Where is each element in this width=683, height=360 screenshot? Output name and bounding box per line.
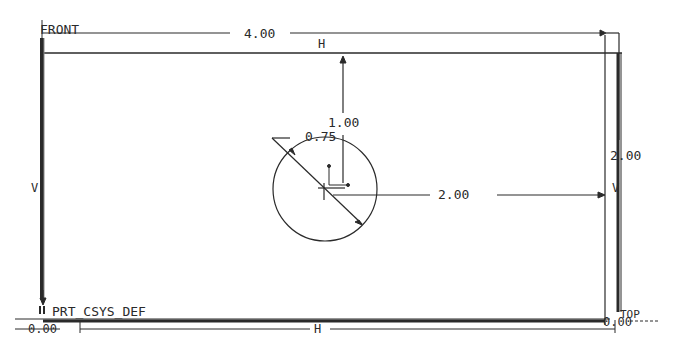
csys-label: PRT_CSYS_DEF [52, 304, 146, 319]
sketch-canvas[interactable]: FRONT 4.00 H 1.00 0.75 2.00 2.00 V V PRT… [0, 0, 683, 360]
width-dimension[interactable]: 4.00 [244, 26, 275, 41]
hole-diameter-dimension[interactable]: 0.75 [305, 129, 336, 144]
datum-top-label: TOP [620, 308, 640, 321]
hole-offset-top-dimension[interactable]: 1.00 [328, 115, 359, 130]
height-dimension[interactable]: 2.00 [610, 148, 641, 163]
bottom-horizontal-constraint: H [314, 322, 321, 336]
top-horizontal-constraint: H [318, 37, 325, 51]
hole-offset-right-dimension[interactable]: 2.00 [438, 187, 469, 202]
right-vertical-constraint: V [612, 181, 619, 195]
datum-front-label: FRONT [40, 22, 79, 37]
origin-left-dimension[interactable]: 0.00 [28, 322, 57, 336]
left-vertical-constraint: V [31, 181, 38, 195]
